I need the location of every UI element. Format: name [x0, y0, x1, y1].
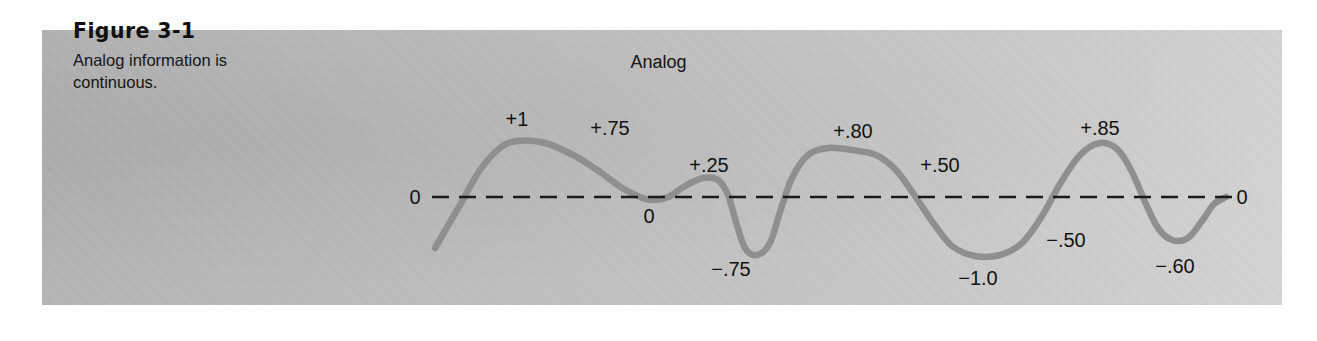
value-label-4: +.25	[689, 154, 728, 177]
value-label-1: +1	[506, 108, 529, 131]
value-label-6: +.80	[833, 120, 872, 143]
value-label-10: −.50	[1046, 229, 1085, 252]
value-label-2: +.75	[590, 117, 629, 140]
figure-number: Figure 3-1	[73, 20, 303, 44]
value-label-8: −1.0	[958, 267, 997, 290]
value-label-9: +.85	[1080, 117, 1119, 140]
value-label-3: 0	[643, 205, 654, 228]
value-label-11: −.60	[1155, 255, 1194, 278]
chart-title: Analog	[0, 52, 1317, 73]
value-label-12: 0	[1236, 186, 1247, 209]
value-label-5: −.75	[711, 258, 750, 281]
analog-waveform-curve	[435, 141, 1226, 257]
value-label-0: 0	[409, 186, 420, 209]
figure-root: Figure 3-1 Analog information is continu…	[0, 0, 1317, 341]
value-label-7: +.50	[920, 154, 959, 177]
